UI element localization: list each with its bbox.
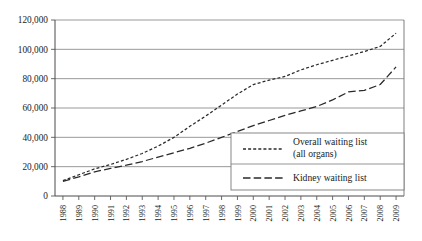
x-axis-tick-label: 1995 — [170, 205, 179, 221]
line-chart: 020,00040,00060,00080,000100,000120,000 … — [0, 0, 422, 241]
x-axis-tick-label: 1993 — [138, 205, 147, 221]
x-axis-tick-label: 1998 — [218, 205, 227, 221]
y-axis-tick-label: 40,000 — [22, 133, 48, 143]
chart-background — [0, 0, 422, 241]
x-axis-tick-label: 1994 — [154, 205, 163, 221]
x-axis-tick-label: 2000 — [249, 205, 258, 221]
x-axis-tick-label: 1999 — [234, 205, 243, 221]
x-axis-tick-label: 1990 — [91, 205, 100, 221]
x-axis-tick-label: 2004 — [313, 205, 322, 221]
x-axis-tick-label: 1989 — [75, 205, 84, 221]
x-axis-tick-label: 2006 — [345, 205, 354, 221]
x-axis-tick-label: 2001 — [265, 205, 274, 221]
x-axis-tick-label: 1996 — [186, 205, 195, 221]
chart-container: 020,00040,00060,00080,000100,000120,000 … — [0, 0, 422, 241]
x-axis-tick-label: 2003 — [297, 205, 306, 221]
legend-label-line2: (all organs) — [293, 148, 337, 160]
y-axis-tick-label: 100,000 — [18, 45, 49, 55]
y-axis-tick-label: 0 — [43, 191, 48, 201]
x-axis-tick-label: 2005 — [329, 205, 338, 221]
y-axis-tick-label: 60,000 — [22, 103, 48, 113]
y-axis-tick-label: 20,000 — [22, 162, 48, 172]
x-axis-tick-label: 1988 — [59, 205, 68, 221]
legend-label: Kidney waiting list — [293, 172, 367, 183]
x-axis-tick-label: 1991 — [107, 205, 116, 221]
chart-legend: Overall waiting list(all organs)Kidney w… — [231, 133, 404, 190]
x-axis-tick-label: 2002 — [281, 205, 290, 221]
x-axis-tick-label: 2007 — [360, 205, 369, 221]
legend-label: Overall waiting list — [293, 136, 367, 147]
y-axis-tick-label: 120,000 — [18, 15, 49, 25]
x-axis-tick-label: 1997 — [202, 205, 211, 221]
y-axis-tick-label: 80,000 — [22, 74, 48, 84]
x-axis-tick-label: 1992 — [122, 205, 131, 221]
x-axis-tick-label: 2008 — [376, 205, 385, 221]
x-axis-tick-label: 2009 — [392, 205, 401, 221]
